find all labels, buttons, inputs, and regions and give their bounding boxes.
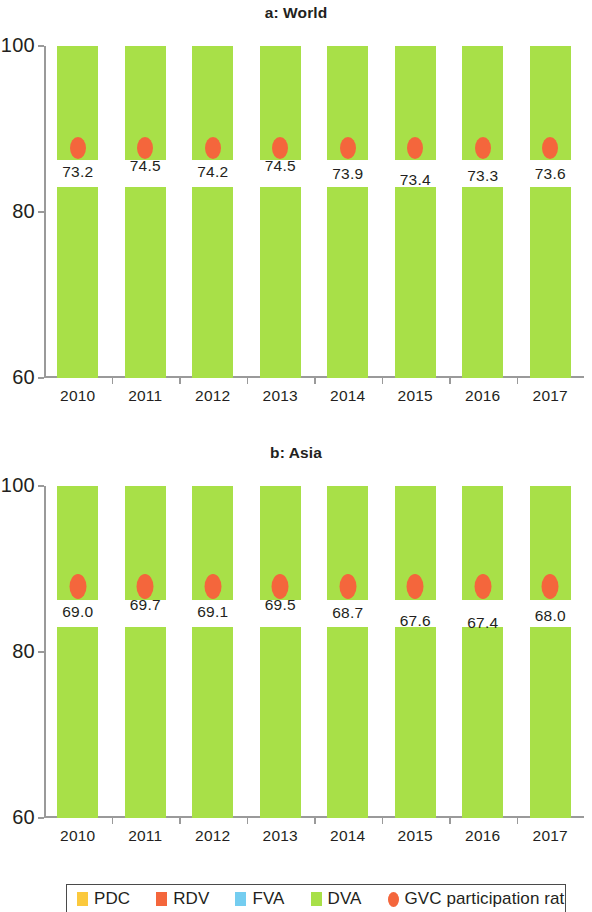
y-axis-tick-mark xyxy=(38,45,44,47)
panel-title-world: a: World xyxy=(0,4,592,22)
bar-segment-dva xyxy=(57,187,98,378)
bar-value-label: 69.7 xyxy=(130,596,161,614)
gvc-participation-rate-marker xyxy=(407,137,423,159)
x-axis-tick-mark xyxy=(179,818,181,824)
bar-segment-dva xyxy=(395,627,436,818)
bar-segment-dva xyxy=(125,187,166,378)
x-axis-tick-mark xyxy=(382,378,384,384)
bar-segment-dva xyxy=(530,627,571,818)
x-axis-tick-label: 2011 xyxy=(128,387,162,405)
x-axis-tick-mark xyxy=(449,818,451,824)
figure-root: a: World 6080100201073.2201174.5201274.2… xyxy=(0,0,592,912)
y-axis-tick-label: 100 xyxy=(1,474,35,497)
x-axis-tick-mark xyxy=(179,378,181,384)
bar-value-label: 67.4 xyxy=(467,614,498,632)
bar-group[interactable]: 69.7 xyxy=(125,486,166,818)
bar-group[interactable]: 69.1 xyxy=(192,486,233,818)
bar-value-label: 68.7 xyxy=(332,604,363,622)
legend-item-gvc-participation-rate[interactable]: GVC participation rate xyxy=(388,889,566,909)
bar-value-label: 73.6 xyxy=(535,165,566,183)
y-axis-tick-label: 80 xyxy=(12,640,35,663)
bar-group[interactable]: 69.5 xyxy=(260,486,301,818)
x-axis-tick-mark xyxy=(247,818,249,824)
bar-segment-dva xyxy=(327,187,368,378)
bar-group[interactable]: 74.2 xyxy=(192,46,233,378)
bar-group[interactable]: 73.6 xyxy=(530,46,571,378)
y-axis-tick-mark xyxy=(38,651,44,653)
bar-group[interactable]: 69.0 xyxy=(57,486,98,818)
y-axis-tick-mark xyxy=(38,211,44,213)
bar-segment-dva xyxy=(530,187,571,378)
bar-group[interactable]: 74.5 xyxy=(260,46,301,378)
bar-group[interactable]: 67.6 xyxy=(395,486,436,818)
bar-value-label: 69.5 xyxy=(265,596,296,614)
bar-segment-dva xyxy=(125,627,166,818)
y-axis-tick-mark xyxy=(38,377,44,379)
y-axis-tick-label: 80 xyxy=(12,200,35,223)
legend-swatch-icon xyxy=(311,892,322,906)
gvc-participation-rate-marker xyxy=(542,574,559,599)
x-axis-tick-label: 2012 xyxy=(195,387,230,405)
x-axis-tick-label: 2015 xyxy=(398,827,433,845)
legend-item-rdv[interactable]: RDV xyxy=(156,889,209,909)
bar-segment-dva xyxy=(260,627,301,818)
gvc-participation-rate-marker xyxy=(339,574,356,599)
bar-group[interactable]: 67.4 xyxy=(462,486,503,818)
x-axis-tick-label: 2015 xyxy=(398,387,433,405)
gvc-participation-rate-marker xyxy=(407,574,424,599)
chart-legend: PDCRDVFVADVAGVC participation rate xyxy=(66,884,566,912)
x-axis-tick-mark xyxy=(314,818,316,824)
bar-group[interactable]: 68.0 xyxy=(530,486,571,818)
x-axis-tick-mark xyxy=(314,378,316,384)
bar-value-label: 68.0 xyxy=(535,607,566,625)
legend-label: DVA xyxy=(328,889,362,909)
chart-panel-world: a: World 6080100201073.2201174.5201274.2… xyxy=(0,0,592,440)
x-axis-tick-label: 2013 xyxy=(263,827,298,845)
x-axis-tick-mark xyxy=(382,818,384,824)
x-axis-tick-label: 2017 xyxy=(533,387,568,405)
x-axis-tick-label: 2014 xyxy=(330,387,365,405)
legend-label: FVA xyxy=(252,889,284,909)
bar-value-label: 69.1 xyxy=(197,603,228,621)
legend-item-dva[interactable]: DVA xyxy=(311,889,362,909)
panel-title-asia: b: Asia xyxy=(0,444,592,462)
gvc-participation-rate-marker xyxy=(205,137,221,159)
bar-value-label: 67.6 xyxy=(400,612,431,630)
legend-swatch-icon xyxy=(235,892,246,906)
bar-group[interactable]: 68.7 xyxy=(327,486,368,818)
legend-swatch-icon xyxy=(388,892,399,907)
legend-item-pdc[interactable]: PDC xyxy=(77,889,130,909)
bar-value-label: 69.0 xyxy=(62,603,93,621)
y-axis-tick-label: 60 xyxy=(12,366,35,389)
gvc-participation-rate-marker xyxy=(137,574,154,599)
x-axis-tick-mark xyxy=(112,818,114,824)
y-axis-tick-label: 100 xyxy=(1,34,35,57)
legend-label: PDC xyxy=(94,889,130,909)
legend-label: GVC participation rate xyxy=(405,889,566,909)
legend-label: RDV xyxy=(173,889,209,909)
bar-group[interactable]: 73.2 xyxy=(57,46,98,378)
x-axis-tick-label: 2010 xyxy=(60,387,95,405)
legend-item-fva[interactable]: FVA xyxy=(235,889,284,909)
x-axis-tick-mark xyxy=(247,378,249,384)
x-axis-tick-mark xyxy=(449,378,451,384)
bar-segment-dva xyxy=(260,187,301,378)
bar-segment-dva xyxy=(462,187,503,378)
gvc-participation-rate-marker xyxy=(475,137,491,159)
y-axis-tick-label: 60 xyxy=(12,806,35,829)
bar-segment-dva xyxy=(57,627,98,818)
bar-group[interactable]: 74.5 xyxy=(125,46,166,378)
bar-group[interactable]: 73.9 xyxy=(327,46,368,378)
legend-swatch-icon xyxy=(156,892,167,906)
gvc-participation-rate-marker xyxy=(69,574,86,599)
x-axis-tick-label: 2016 xyxy=(465,827,500,845)
bar-value-label: 73.2 xyxy=(62,163,93,181)
bar-segment-dva xyxy=(192,627,233,818)
bar-group[interactable]: 73.3 xyxy=(462,46,503,378)
gvc-participation-rate-marker xyxy=(542,137,558,159)
bar-group[interactable]: 73.4 xyxy=(395,46,436,378)
bar-value-label: 73.9 xyxy=(332,165,363,183)
x-axis-tick-label: 2014 xyxy=(330,827,365,845)
bar-segment-dva xyxy=(192,187,233,378)
chart-panel-asia: b: Asia 6080100201069.0201169.7201269.12… xyxy=(0,440,592,860)
